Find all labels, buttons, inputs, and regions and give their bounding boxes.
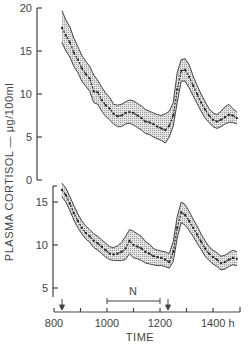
data-point: [136, 114, 138, 116]
data-point: [232, 257, 234, 259]
svg-text:1200: 1200: [148, 317, 172, 329]
data-point: [172, 251, 174, 253]
data-point: [216, 259, 218, 261]
data-point: [69, 41, 71, 43]
data-point: [132, 112, 134, 114]
svg-text:20: 20: [20, 2, 32, 14]
data-point: [204, 108, 206, 110]
data-point: [168, 261, 170, 263]
upper-y-axis: [37, 8, 42, 180]
data-point: [73, 212, 75, 214]
data-point: [77, 59, 79, 61]
data-point: [77, 220, 79, 222]
data-point: [188, 220, 190, 222]
data-point: [93, 240, 95, 242]
data-point: [73, 52, 75, 54]
svg-text:15: 15: [20, 45, 32, 57]
data-point: [128, 111, 130, 113]
lower-series: [61, 183, 238, 270]
data-point: [172, 114, 174, 116]
data-point: [101, 246, 103, 248]
svg-text:800: 800: [45, 317, 63, 329]
data-point: [236, 117, 238, 119]
data-point: [120, 251, 122, 253]
n-bracket: [107, 298, 160, 304]
data-point: [117, 253, 119, 255]
data-point: [156, 126, 158, 128]
data-point: [212, 119, 214, 121]
data-point: [128, 240, 130, 242]
data-point: [120, 114, 122, 116]
data-point: [212, 256, 214, 258]
data-point: [105, 104, 107, 106]
data-point: [204, 247, 206, 249]
confidence-band: [62, 183, 237, 270]
lower-y-tick-labels: 15 10 5: [36, 196, 48, 294]
data-point: [109, 253, 111, 255]
data-point: [220, 262, 222, 264]
data-point: [228, 114, 230, 116]
data-point: [61, 27, 63, 29]
x-tick-labels: 800 1000 1200 1400 h: [45, 317, 235, 329]
data-point: [208, 253, 210, 255]
data-point: [180, 211, 182, 213]
data-point: [184, 214, 186, 216]
down-arrow-icon: [60, 299, 65, 310]
data-point: [164, 259, 166, 261]
svg-text:10: 10: [20, 88, 32, 100]
data-point: [164, 129, 166, 131]
svg-text:5: 5: [26, 131, 32, 143]
data-point: [232, 114, 234, 116]
data-point: [160, 127, 162, 129]
data-point: [236, 258, 238, 260]
data-point: [192, 84, 194, 86]
cortisol-chart: PLASMA CORTISOL — μg/100ml 20 15 10 5 0 …: [0, 0, 248, 345]
data-point: [140, 247, 142, 249]
data-point: [228, 259, 230, 261]
data-point: [196, 93, 198, 95]
y-axis-title: PLASMA CORTISOL — μg/100ml: [3, 83, 15, 261]
data-point: [224, 116, 226, 118]
data-point: [200, 240, 202, 242]
x-axis-title: TIME: [126, 331, 154, 343]
data-point: [156, 256, 158, 258]
data-point: [220, 119, 222, 121]
data-point: [97, 242, 99, 244]
data-point: [148, 121, 150, 123]
data-point: [224, 261, 226, 263]
upper-y-tick-labels: 20 15 10 5 0: [20, 2, 32, 186]
data-point: [132, 244, 134, 246]
data-point: [81, 227, 83, 229]
data-point: [140, 117, 142, 119]
data-point: [152, 255, 154, 257]
data-point: [144, 251, 146, 253]
data-point: [61, 189, 63, 191]
data-point: [168, 125, 170, 127]
data-point: [85, 73, 87, 75]
data-point: [93, 90, 95, 92]
data-point: [136, 246, 138, 248]
data-point: [124, 247, 126, 249]
data-point: [69, 203, 71, 205]
svg-text:10: 10: [36, 239, 48, 251]
data-point: [200, 102, 202, 104]
data-point: [65, 194, 67, 196]
band-edge-line: [62, 11, 237, 116]
data-point: [89, 235, 91, 237]
data-point: [152, 123, 154, 125]
svg-text:15: 15: [36, 196, 48, 208]
data-point: [216, 120, 218, 122]
data-point: [160, 257, 162, 259]
svg-text:1000: 1000: [95, 317, 119, 329]
down-arrow-icon: [166, 299, 171, 310]
data-point: [192, 227, 194, 229]
upper-series: [61, 11, 238, 143]
data-point: [105, 249, 107, 251]
data-point: [176, 227, 178, 229]
data-point: [89, 77, 91, 79]
data-point: [113, 253, 115, 255]
lower-y-axis: [53, 186, 58, 297]
data-point: [176, 89, 178, 91]
data-point: [81, 67, 83, 69]
data-point: [101, 99, 103, 101]
